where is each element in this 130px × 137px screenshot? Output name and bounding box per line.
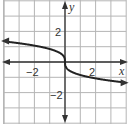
y-tick-label-2: 2: [55, 26, 61, 38]
y-tick-label-neg2: −2: [50, 89, 63, 101]
y-axis-label: y: [68, 0, 75, 14]
x-tick-label-neg2: −2: [26, 66, 39, 78]
x-tick-label-2: 2: [89, 66, 95, 78]
x-axis-label: x: [118, 64, 125, 78]
function-graph: x y −2 2 2 −2: [0, 0, 130, 137]
